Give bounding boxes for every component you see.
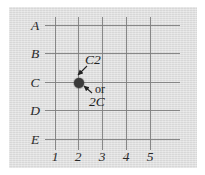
gridline-col-5	[150, 17, 151, 150]
col-label-2: 2	[70, 150, 86, 164]
diagram-panel: A B C D E 1 2 3 4 5 C2	[9, 7, 197, 168]
arrow-to-point-upper	[72, 64, 92, 82]
gridline-row-E	[45, 139, 180, 140]
gridline-row-C	[45, 82, 180, 83]
gridline-col-4	[126, 17, 127, 150]
gridline-row-D	[45, 110, 180, 111]
row-label-A: A	[27, 19, 43, 33]
row-label-E: E	[27, 133, 43, 147]
col-label-1: 1	[47, 150, 63, 164]
figure-root: A B C D E 1 2 3 4 5 C2	[0, 0, 205, 175]
annotation-label-2c: 2C	[89, 95, 105, 109]
row-label-B: B	[27, 47, 43, 61]
col-label-5: 5	[142, 150, 158, 164]
gridline-row-A	[45, 25, 180, 26]
row-label-D: D	[27, 104, 43, 118]
gridline-col-1	[55, 17, 56, 150]
col-label-4: 4	[118, 150, 134, 164]
gridline-row-B	[45, 53, 180, 54]
row-label-C: C	[27, 76, 43, 90]
col-label-3: 3	[94, 150, 110, 164]
